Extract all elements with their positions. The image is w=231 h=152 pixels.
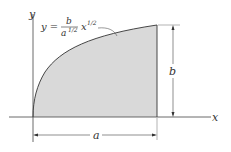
height-label: b	[169, 65, 176, 78]
area-diagram: y x y = b a 1/2 x 1/2 b a	[0, 0, 231, 152]
a-arrow-left	[33, 134, 38, 137]
x-axis-label: x	[212, 111, 219, 124]
equation-factor-exp: 1/2	[87, 19, 97, 26]
equation-numerator: b	[66, 16, 72, 26]
equation-denominator: a	[61, 28, 66, 38]
y-axis-label: y	[28, 8, 36, 21]
b-arrow-top	[172, 25, 175, 30]
b-arrow-bottom	[172, 112, 175, 117]
width-label: a	[93, 129, 100, 142]
equation-lhs: y =	[40, 21, 58, 32]
a-arrow-right	[152, 134, 157, 137]
equation-denominator-exp: 1/2	[68, 26, 78, 33]
